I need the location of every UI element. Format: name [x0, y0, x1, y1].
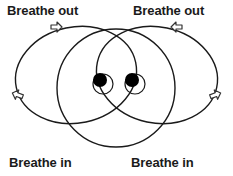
- label-breathe-out-right: Breathe out: [133, 3, 204, 18]
- label-breathe-out-left: Breathe out: [7, 3, 78, 18]
- breathing-pattern-figure: [0, 0, 233, 176]
- arrow-right-side-icon: [209, 88, 223, 101]
- diagram-canvas: Breathe out Breathe out Breathe in Breat…: [0, 0, 233, 176]
- right-focus-dot: [125, 73, 139, 87]
- left-loop-curve: [6, 15, 145, 134]
- label-breathe-in-right: Breathe in: [131, 155, 194, 170]
- arrow-top-right-icon: [171, 22, 182, 32]
- label-breathe-in-left: Breathe in: [9, 155, 72, 170]
- arrow-top-left-icon: [51, 22, 62, 32]
- arrow-left-side-icon: [11, 88, 25, 101]
- left-focus-dot: [93, 73, 107, 87]
- center-circle-curve: [57, 29, 175, 147]
